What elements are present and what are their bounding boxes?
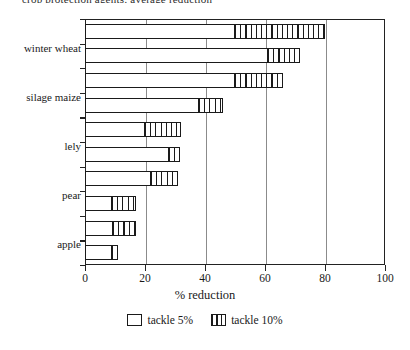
y-axis-label-pear: pear	[62, 189, 81, 201]
y-tick	[80, 19, 86, 20]
x-tick-label-0: 0	[82, 272, 88, 284]
bar-segment-tackle-10	[234, 24, 325, 39]
bar-segment-tackle-5	[85, 196, 112, 211]
x-tick-label-40: 40	[199, 272, 211, 284]
bar-segment-tackle-10	[112, 221, 136, 236]
bar-segment-tackle-10	[111, 245, 118, 260]
legend-swatch-solid-icon	[127, 314, 142, 326]
x-tick-label-80: 80	[319, 272, 331, 284]
bar-row	[85, 122, 181, 137]
bar-segment-tackle-10	[111, 196, 136, 211]
bar-segment-tackle-10	[168, 147, 180, 162]
bar-row	[85, 171, 178, 186]
bar-row	[85, 221, 136, 236]
chart-legend: tackle 5%tackle 10%	[0, 314, 410, 326]
x-tick-0	[85, 265, 86, 271]
y-axis-label-silage-maize: silage maize	[26, 91, 81, 103]
bar-row	[85, 196, 136, 211]
bar-segment-tackle-5	[85, 73, 235, 88]
y-axis-label-winter-wheat: winter wheat	[24, 42, 81, 54]
x-tick-label-60: 60	[259, 272, 271, 284]
y-tick	[80, 167, 86, 168]
bar-chart: crop protection agents: average reductio…	[0, 0, 410, 350]
legend-item: tackle 5%	[127, 314, 193, 326]
bar-row	[85, 245, 118, 260]
bar-segment-tackle-5	[85, 147, 169, 162]
bar-row	[85, 48, 300, 63]
x-tick-40	[205, 265, 206, 271]
x-tick-20	[145, 265, 146, 271]
x-tick-label-100: 100	[376, 272, 393, 284]
bar-segment-tackle-5	[85, 245, 112, 260]
x-tick-label-20: 20	[139, 272, 151, 284]
bar-segment-tackle-5	[85, 24, 235, 39]
legend-label: tackle 5%	[147, 314, 193, 326]
bar-segment-tackle-5	[85, 171, 151, 186]
bar-row	[85, 98, 223, 113]
bar-row	[85, 73, 283, 88]
bars-layer	[85, 19, 385, 265]
y-tick	[80, 68, 86, 69]
y-axis-label-lely: lely	[65, 140, 82, 152]
legend-label: tackle 10%	[231, 314, 282, 326]
legend-swatch-hatched-icon	[211, 314, 226, 326]
bar-segment-tackle-10	[267, 48, 300, 63]
x-tick-80	[325, 265, 326, 271]
y-axis-label-apple: apple	[57, 238, 81, 250]
bar-row	[85, 147, 180, 162]
y-tick	[80, 117, 86, 118]
bar-segment-tackle-10	[150, 171, 178, 186]
bar-segment-tackle-10	[198, 98, 223, 113]
y-tick	[80, 216, 86, 217]
bar-segment-tackle-5	[85, 98, 199, 113]
x-tick-100	[385, 265, 386, 271]
x-tick-60	[265, 265, 266, 271]
chart-title-clipped: crop protection agents: average reductio…	[22, 0, 382, 3]
bar-segment-tackle-5	[85, 221, 114, 236]
bar-segment-tackle-10	[234, 73, 283, 88]
x-axis-title: % reduction	[0, 288, 410, 303]
bar-segment-tackle-5	[85, 48, 268, 63]
bar-segment-tackle-5	[85, 122, 145, 137]
legend-item: tackle 10%	[211, 314, 282, 326]
bar-row	[85, 24, 325, 39]
bar-segment-tackle-10	[144, 122, 181, 137]
